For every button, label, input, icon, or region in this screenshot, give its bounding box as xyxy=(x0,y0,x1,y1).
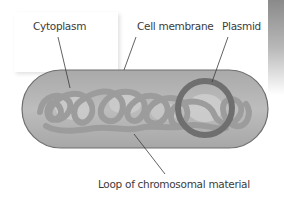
cell-membrane-leader-line xyxy=(124,37,136,70)
plasmid-label: Plasmid xyxy=(222,20,261,32)
chromosome-label: Loop of chromosomal material xyxy=(98,178,250,190)
cell-membrane-label: Cell membrane xyxy=(137,20,214,32)
cytoplasm-label: Cytoplasm xyxy=(33,20,86,32)
